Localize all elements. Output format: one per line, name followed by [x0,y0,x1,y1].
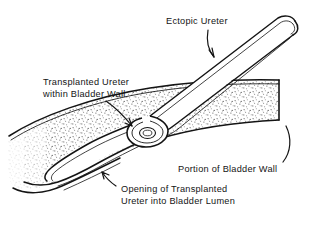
label-portion-of-bladder-wall: Portion of Bladder Wall [178,164,277,174]
label-transplanted-ureter-line2: within Bladder Wall [42,89,126,99]
bladder-wall-leader [283,126,290,162]
anatomical-figure: Ectopic Ureter Transplanted Ureter withi… [0,0,309,231]
opening-leader-arrow [102,172,109,179]
label-transplanted-ureter-line1: Transplanted Ureter [43,77,129,87]
ureteral-lumen-mouth-inner [143,130,152,136]
label-opening-line1: Opening of Transplanted [121,184,227,194]
label-ectopic-ureter: Ectopic Ureter [166,16,228,26]
label-opening-line2: Ureter into Bladder Lumen [121,196,235,206]
